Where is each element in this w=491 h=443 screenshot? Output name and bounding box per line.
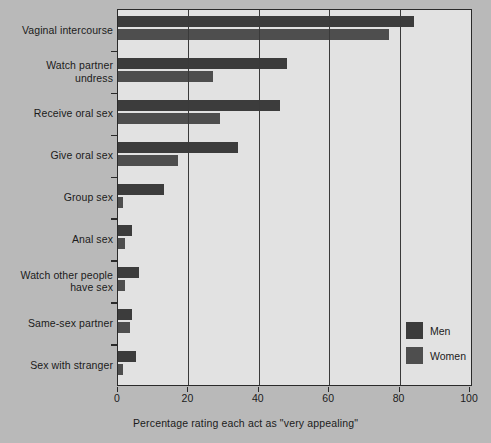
category-label-7: Same-sex partner	[1, 317, 113, 330]
bar-women-5	[118, 238, 125, 249]
x-tick-label: 60	[322, 392, 334, 404]
gridline	[400, 10, 401, 385]
bar-women-7	[118, 322, 130, 333]
category-label-3: Give oral sex	[1, 149, 113, 162]
gridline	[329, 10, 330, 385]
y-tick-mark	[111, 344, 117, 346]
legend-label: Men	[430, 325, 450, 337]
legend-item-women: Women	[406, 347, 466, 364]
bar-women-4	[118, 197, 123, 208]
x-tick-label: 80	[393, 392, 405, 404]
legend: MenWomen	[406, 322, 466, 372]
category-label-line: Same-sex partner	[1, 317, 113, 330]
bar-women-8	[118, 364, 123, 375]
y-tick-mark	[111, 93, 117, 95]
category-label-0: Vaginal intercourse	[1, 24, 113, 37]
legend-swatch-men	[406, 322, 423, 339]
category-label-4: Group sex	[1, 191, 113, 204]
category-label-line: Vaginal intercourse	[1, 24, 113, 37]
bar-women-3	[118, 155, 178, 166]
legend-label: Women	[430, 350, 466, 362]
bar-men-4	[118, 184, 164, 195]
bar-women-6	[118, 280, 125, 291]
bar-men-5	[118, 225, 132, 236]
category-label-8: Sex with stranger	[1, 359, 113, 372]
category-label-line: Anal sex	[1, 233, 113, 246]
bar-men-2	[118, 100, 280, 111]
legend-item-men: Men	[406, 322, 466, 339]
category-label-line: Group sex	[1, 191, 113, 204]
gridline	[188, 10, 189, 385]
bar-men-8	[118, 351, 136, 362]
x-tick-label: 20	[182, 392, 194, 404]
category-label-2: Receive oral sex	[1, 107, 113, 120]
bar-women-1	[118, 71, 213, 82]
bar-men-1	[118, 58, 287, 69]
category-label-5: Anal sex	[1, 233, 113, 246]
category-label-line: Sex with stranger	[1, 359, 113, 372]
bar-men-6	[118, 267, 139, 278]
category-label-line: Receive oral sex	[1, 107, 113, 120]
category-label-6: Watch other peoplehave sex	[1, 269, 113, 294]
gridline	[259, 10, 260, 385]
bar-women-2	[118, 113, 220, 124]
x-tick-label: 100	[460, 392, 478, 404]
category-axis-labels: Vaginal intercourseWatch partnerundressR…	[0, 9, 113, 386]
bar-women-0	[118, 29, 389, 40]
category-label-line: undress	[1, 72, 113, 85]
legend-swatch-women	[406, 347, 423, 364]
category-label-line: have sex	[1, 281, 113, 294]
chart-figure: Vaginal intercourseWatch partnerundressR…	[0, 0, 491, 443]
y-tick-mark	[111, 260, 117, 262]
x-tick-label: 40	[252, 392, 264, 404]
bar-men-0	[118, 16, 414, 27]
category-label-line: Watch other people	[1, 269, 113, 282]
y-tick-mark	[111, 135, 117, 137]
category-label-1: Watch partnerundress	[1, 59, 113, 84]
bar-men-7	[118, 309, 132, 320]
y-tick-mark	[111, 177, 117, 179]
category-label-line: Give oral sex	[1, 149, 113, 162]
bar-men-3	[118, 142, 238, 153]
x-tick-label: 0	[114, 392, 120, 404]
y-tick-mark	[111, 51, 117, 53]
x-axis-title: Percentage rating each act as "very appe…	[0, 417, 491, 429]
y-tick-mark	[111, 302, 117, 304]
y-tick-mark	[111, 218, 117, 220]
category-label-line: Watch partner	[1, 59, 113, 72]
